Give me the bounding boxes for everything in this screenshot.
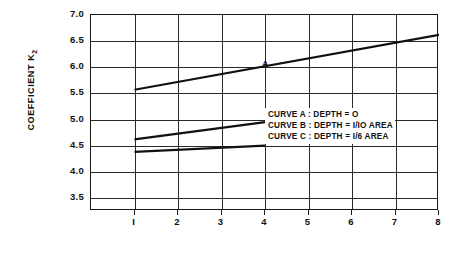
curve-b xyxy=(135,122,266,139)
y-axis-tick-label: 4.5 xyxy=(50,139,84,150)
chart-figure: COEFFICIENT K2 7.06.56.05.55.04.54.03.5 … xyxy=(0,0,463,261)
y-axis-tick-label: 6.0 xyxy=(50,60,84,71)
y-axis-tick-label: 4.0 xyxy=(50,165,84,176)
y-axis-title: COEFFICIENT K2 xyxy=(26,10,38,170)
legend-item-b: CURVE B : DEPTH = I/IO AREA xyxy=(268,120,393,131)
curve-a xyxy=(135,35,440,90)
legend-item-c: CURVE C : DEPTH = I/6 AREA xyxy=(268,131,393,142)
x-axis-tick-label: 4 xyxy=(256,216,272,227)
x-axis-tick-label: 5 xyxy=(300,216,316,227)
curve-label-a: A xyxy=(262,59,269,69)
y-axis-tick-label: 5.5 xyxy=(50,86,84,97)
x-axis-tick-label: 6 xyxy=(343,216,359,227)
y-axis-tick-label: 6.5 xyxy=(50,34,84,45)
y-axis-tick-label: 3.5 xyxy=(50,191,84,202)
y-axis-title-subscript: 2 xyxy=(31,49,38,54)
x-axis-tick-label: 2 xyxy=(169,216,185,227)
x-axis-tick-label: 3 xyxy=(213,216,229,227)
y-axis-tick-label: 7.0 xyxy=(50,8,84,19)
x-axis-tick-label: 8 xyxy=(430,216,446,227)
legend-item-a: CURVE A : DEPTH = O xyxy=(268,109,393,120)
x-axis-tick-label: I xyxy=(126,216,142,227)
curve-c xyxy=(135,146,266,152)
plot-area: ABC CURVE A : DEPTH = O CURVE B : DEPTH … xyxy=(90,14,438,210)
y-axis-title-text: COEFFICIENT K xyxy=(26,54,36,131)
x-axis-tick-label: 7 xyxy=(387,216,403,227)
y-axis-tick-label: 5.0 xyxy=(50,113,84,124)
legend-box: CURVE A : DEPTH = O CURVE B : DEPTH = I/… xyxy=(265,108,395,144)
